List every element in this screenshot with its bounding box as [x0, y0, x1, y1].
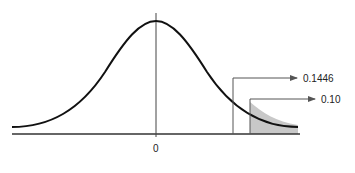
normal-curve-diagram: 0.1446 0.10 0: [0, 0, 355, 173]
axis-label-zero: 0: [153, 143, 159, 154]
label-0.10: 0.10: [321, 94, 341, 105]
label-0.1446: 0.1446: [303, 73, 334, 84]
